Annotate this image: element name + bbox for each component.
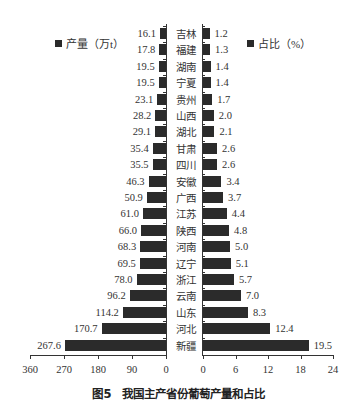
share-value-label: 1.4	[216, 77, 229, 89]
province-label: 福建	[172, 44, 200, 56]
production-value-label: 29.1	[133, 126, 151, 138]
production-value-label: 170.7	[74, 323, 98, 335]
share-value-label: 5.7	[239, 274, 252, 286]
share-bar	[203, 225, 229, 236]
production-bar	[130, 290, 166, 301]
production-value-label: 267.6	[37, 340, 61, 352]
share-value-label: 1.2	[215, 28, 228, 40]
production-value-label: 96.2	[107, 290, 125, 302]
share-value-label: 7.0	[246, 290, 259, 302]
production-value-label: 46.3	[126, 176, 144, 188]
x-axis-tick	[98, 355, 99, 359]
share-bar	[203, 208, 227, 219]
share-value-label: 2.0	[219, 110, 232, 122]
share-value-label: 19.5	[314, 340, 332, 352]
share-bar	[203, 77, 211, 88]
share-value-label: 2.1	[219, 126, 232, 138]
production-value-label: 61.0	[121, 208, 139, 220]
x-axis-tick-label: 0	[163, 364, 168, 375]
x-axis-tick-label: 360	[22, 364, 38, 375]
production-bar	[159, 77, 166, 88]
x-axis-tick	[30, 355, 31, 359]
x-axis-tick-label: 180	[90, 364, 106, 375]
x-axis-tick-label: 270	[56, 364, 72, 375]
production-bar	[140, 258, 166, 269]
production-bar	[141, 225, 166, 236]
production-bar	[140, 241, 166, 252]
share-bar	[203, 258, 231, 269]
share-bar	[203, 192, 223, 203]
x-axis-tick	[333, 355, 334, 359]
production-value-label: 17.8	[137, 44, 155, 56]
x-axis-tick	[268, 355, 269, 359]
production-bar	[102, 323, 166, 334]
production-value-label: 19.5	[136, 61, 154, 73]
production-value-label: 19.5	[136, 77, 154, 89]
province-label: 贵州	[172, 94, 200, 106]
share-bar	[203, 110, 214, 121]
share-value-label: 1.3	[215, 44, 228, 56]
share-bar	[203, 126, 214, 137]
province-label: 四川	[172, 159, 200, 171]
x-axis-tick-label: 18	[295, 364, 306, 375]
province-label: 云南	[172, 290, 200, 302]
production-bar	[149, 176, 166, 187]
province-label: 宁夏	[172, 77, 200, 89]
province-label: 湖南	[172, 61, 200, 73]
share-value-label: 8.3	[253, 307, 266, 319]
share-bar	[203, 44, 210, 55]
share-value-label: 4.8	[234, 225, 247, 237]
share-bar	[203, 290, 241, 301]
production-bar	[155, 110, 166, 121]
x-axis-tick-label: 24	[328, 364, 339, 375]
share-bar	[203, 340, 309, 351]
province-label: 辽宁	[172, 258, 200, 270]
share-bar	[203, 94, 212, 105]
share-bar	[203, 176, 221, 187]
province-label: 江苏	[172, 208, 200, 220]
province-label: 湖北	[172, 126, 200, 138]
production-value-label: 50.9	[124, 192, 142, 204]
share-bar	[203, 241, 230, 252]
share-bar	[203, 274, 234, 285]
left-center-axis	[166, 24, 167, 356]
production-bar	[143, 208, 166, 219]
x-axis-tick	[301, 355, 302, 359]
x-axis-tick-label: 12	[263, 364, 274, 375]
share-value-label: 2.6	[222, 143, 235, 155]
province-label: 河北	[172, 323, 200, 335]
production-value-label: 69.5	[117, 258, 135, 270]
province-label: 广西	[172, 192, 200, 204]
province-label: 山西	[172, 110, 200, 122]
province-label: 安徽	[172, 176, 200, 188]
x-axis-tick-label: 6	[233, 364, 238, 375]
province-label: 陕西	[172, 225, 200, 237]
x-axis-tick-label: 90	[127, 364, 138, 375]
province-label: 山东	[172, 307, 200, 319]
production-value-label: 35.5	[130, 159, 148, 171]
x-axis-tick	[64, 355, 65, 359]
x-axis-tick	[236, 355, 237, 359]
province-label: 新疆	[172, 340, 200, 352]
production-bar	[65, 340, 166, 351]
share-value-label: 12.4	[275, 323, 293, 335]
share-bar	[203, 61, 211, 72]
share-value-label: 1.7	[217, 94, 230, 106]
share-value-label: 2.6	[222, 159, 235, 171]
production-value-label: 78.0	[114, 274, 132, 286]
share-value-label: 3.7	[228, 192, 241, 204]
production-bar	[157, 94, 166, 105]
production-value-label: 68.3	[118, 241, 136, 253]
share-value-label: 1.4	[216, 61, 229, 73]
share-bar	[203, 323, 270, 334]
province-label: 吉林	[172, 28, 200, 40]
production-bar	[123, 307, 166, 318]
province-label: 浙江	[172, 274, 200, 286]
production-value-label: 35.4	[130, 143, 148, 155]
production-bar	[159, 44, 166, 55]
share-bar	[203, 159, 217, 170]
share-bar	[203, 28, 210, 39]
x-axis-tick	[132, 355, 133, 359]
production-bar	[159, 61, 166, 72]
production-bar	[137, 274, 166, 285]
